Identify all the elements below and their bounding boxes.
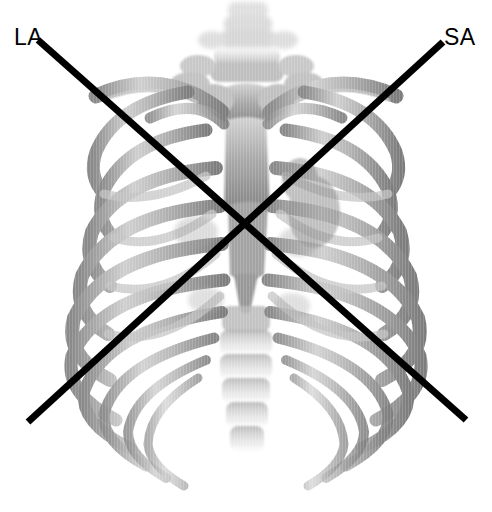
figure-canvas: LA SA <box>0 0 492 512</box>
axis-overlay <box>0 0 492 512</box>
short-axis-label: SA <box>444 26 476 49</box>
long-axis-line <box>38 40 466 420</box>
long-axis-label: LA <box>14 26 43 49</box>
short-axis-line <box>28 42 443 422</box>
